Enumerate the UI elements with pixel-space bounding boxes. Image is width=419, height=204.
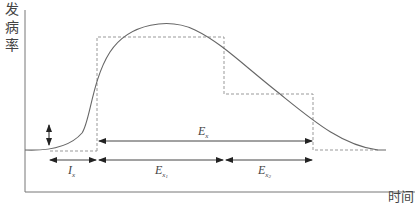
label-ex: Ex <box>198 124 208 140</box>
y-label-char: 发 <box>3 0 21 18</box>
label-ix: Ix <box>68 163 75 179</box>
y-axis-label: 发 病 率 <box>3 0 21 54</box>
y-label-char: 病 <box>3 18 21 36</box>
y-label-char: 率 <box>3 36 21 54</box>
dashed-step-box <box>97 37 380 151</box>
label-subsub: 1 <box>165 174 168 179</box>
label-subsub: 2 <box>268 174 271 179</box>
label-ex1: Ex1 <box>155 163 168 179</box>
label-ex2: Ex2 <box>258 163 271 179</box>
incidence-diagram <box>0 0 419 204</box>
label-sub: x <box>72 171 75 179</box>
label-sub: x <box>205 132 208 140</box>
x-axis-label: 时间 <box>388 186 414 204</box>
